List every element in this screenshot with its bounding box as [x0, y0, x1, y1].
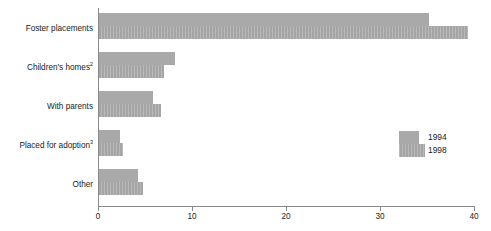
- legend: 1994 1998: [399, 131, 489, 159]
- legend-swatch-icon: [399, 131, 419, 144]
- bar-1994: [98, 169, 138, 182]
- legend-label: 1994: [428, 131, 447, 144]
- category-label-text: Other: [73, 180, 93, 189]
- category-label: Foster placements: [26, 24, 93, 34]
- legend-swatch-icon: [399, 144, 425, 157]
- y-axis-line: [98, 8, 99, 206]
- bar-1998: [98, 182, 143, 195]
- x-tick-label: 30: [375, 212, 384, 221]
- category-label: With parents: [47, 102, 93, 112]
- legend-label: 1998: [428, 144, 447, 157]
- x-tick-label: 0: [96, 212, 101, 221]
- x-tick-label: 10: [187, 212, 196, 221]
- bar-1994: [98, 13, 429, 26]
- bar-1994: [98, 130, 120, 143]
- category-label: Other: [73, 180, 93, 190]
- category-label-text: Foster placements: [26, 24, 93, 33]
- x-tick: [474, 207, 475, 211]
- plot-area: [98, 0, 474, 231]
- x-tick: [192, 207, 193, 211]
- category-label-text: With parents: [47, 102, 93, 111]
- x-tick: [98, 207, 99, 211]
- bar-1998: [98, 65, 164, 78]
- bar-1994: [98, 52, 175, 65]
- category-label-text: Children's homes: [27, 63, 90, 72]
- category-label: Children's homes2: [27, 63, 93, 73]
- bar-1998: [98, 26, 468, 39]
- bar-1998: [98, 104, 161, 117]
- x-tick: [286, 207, 287, 211]
- category-label-text: Placed for adoption: [19, 141, 90, 150]
- bar-chart: Foster placements Children's homes2 With…: [0, 0, 491, 231]
- category-footnote: 2: [90, 61, 93, 67]
- x-tick-label: 40: [469, 212, 478, 221]
- x-tick-label: 20: [281, 212, 290, 221]
- x-tick: [380, 207, 381, 211]
- category-footnote: 3: [90, 139, 93, 145]
- bar-1994: [98, 91, 153, 104]
- bar-1998: [98, 143, 123, 156]
- category-label: Placed for adoption3: [19, 141, 93, 151]
- category-axis-labels: Foster placements Children's homes2 With…: [0, 0, 93, 231]
